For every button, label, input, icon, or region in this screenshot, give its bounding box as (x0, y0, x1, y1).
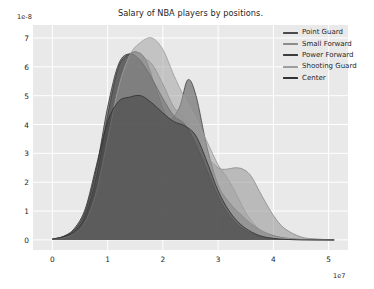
legend-label: Power Forward (302, 52, 354, 59)
legend-swatch-icon (283, 77, 298, 79)
legend-label: Center (302, 75, 326, 82)
legend-item[interactable]: Small Forward (283, 38, 371, 49)
y-tick-label: 6 (7, 62, 29, 71)
legend-item[interactable]: Power Forward (283, 50, 371, 61)
x-axis-tick-labels: 012345 (33, 255, 348, 269)
legend-swatch-icon (283, 32, 298, 34)
y-tick-label: 1 (7, 207, 29, 216)
y-axis-tick-labels: 01234567 (5, 25, 29, 250)
legend-item[interactable]: Center (283, 73, 371, 84)
legend-swatch-icon (283, 54, 298, 56)
legend-swatch-icon (283, 43, 298, 45)
legend-label: Shooting Guard (302, 63, 357, 70)
x-tick-label: 0 (40, 255, 64, 264)
x-tick-label: 1 (96, 255, 120, 264)
legend-swatch-icon (283, 66, 298, 68)
legend-item[interactable]: Shooting Guard (283, 61, 371, 72)
x-axis-offset-label: 1e7 (333, 272, 345, 280)
x-tick-label: 4 (261, 255, 285, 264)
y-tick-label: 5 (7, 91, 29, 100)
x-tick-label: 5 (317, 255, 341, 264)
chart-title: Salary of NBA players by positions. (33, 8, 348, 18)
y-tick-label: 2 (7, 178, 29, 187)
chart-legend: Point GuardSmall ForwardPower ForwardSho… (283, 27, 371, 84)
y-tick-label: 3 (7, 149, 29, 158)
x-tick-label: 2 (151, 255, 175, 264)
y-axis-offset-label: 1e-8 (17, 13, 32, 21)
y-tick-label: 7 (7, 33, 29, 42)
legend-item[interactable]: Point Guard (283, 27, 371, 38)
chart-figure: Salary of NBA players by positions. 1e-8… (0, 0, 374, 289)
x-tick-label: 3 (206, 255, 230, 264)
legend-label: Small Forward (302, 41, 352, 48)
y-tick-label: 0 (7, 235, 29, 244)
y-tick-label: 4 (7, 120, 29, 129)
legend-label: Point Guard (302, 29, 343, 36)
